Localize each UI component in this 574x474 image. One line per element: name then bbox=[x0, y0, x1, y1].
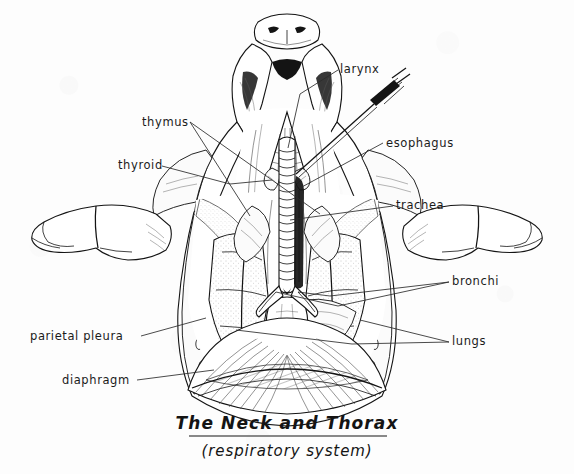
forelimb-left bbox=[32, 205, 172, 260]
label-parietal-pleura: parietal pleura bbox=[30, 329, 123, 343]
figure-title: The Neck and Thorax bbox=[176, 413, 399, 433]
anatomy-figure: larynx thymus esophagus thyroid trachea … bbox=[0, 0, 574, 474]
label-larynx: larynx bbox=[340, 62, 379, 76]
label-esophagus: esophagus bbox=[386, 136, 454, 150]
forelimb-right bbox=[403, 205, 543, 260]
label-bronchi: bronchi bbox=[452, 274, 499, 288]
label-trachea: trachea bbox=[396, 198, 444, 212]
label-diaphragm: diaphragm bbox=[62, 373, 130, 387]
figure-subtitle: (respiratory system) bbox=[201, 442, 372, 460]
figure-caption: The Neck and Thorax (respiratory system) bbox=[176, 413, 399, 460]
label-thymus: thymus bbox=[142, 115, 189, 129]
label-thyroid: thyroid bbox=[118, 158, 163, 172]
mouth-cavity bbox=[272, 59, 302, 80]
label-lungs: lungs bbox=[452, 334, 486, 348]
illustration-page: larynx thymus esophagus thyroid trachea … bbox=[0, 0, 574, 474]
